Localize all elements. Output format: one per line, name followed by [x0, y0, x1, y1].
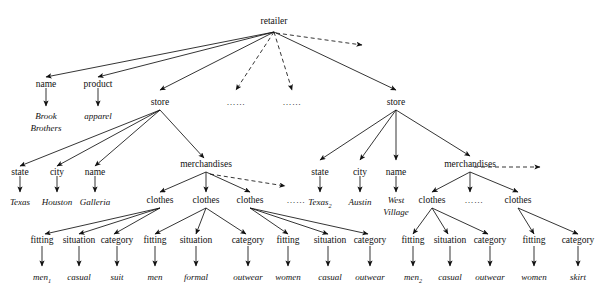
edge-clothesb-category — [206, 208, 246, 234]
edge-clothesa-fitting — [45, 208, 160, 234]
edge-merch2-clothes-b — [470, 172, 518, 192]
node-a-category[interactable]: category — [101, 235, 134, 245]
edge-store1-merchandises — [160, 110, 204, 158]
node-store2-name[interactable]: name — [386, 167, 407, 177]
node-b-situation[interactable]: situation — [180, 235, 213, 245]
leaf-name-value-line2: Brothers — [30, 123, 62, 133]
edges-merch1 — [160, 172, 285, 192]
node-merch1-ellipsis: …… — [286, 195, 305, 205]
edges-clothes-d — [413, 208, 488, 234]
leaf-b-fitting-value: men — [148, 272, 163, 282]
node-ellipsis-1: …… — [226, 97, 245, 107]
edges-clothes-a — [45, 208, 160, 234]
leaf-a-situation-value: casual — [67, 272, 91, 282]
node-a-situation[interactable]: situation — [63, 235, 96, 245]
leaf-b-situation-value: formal — [184, 272, 209, 282]
leaf-store2-state-value: Texas2 — [308, 197, 331, 209]
edge-root-store1 — [160, 32, 274, 90]
edge-store2-state — [320, 110, 396, 160]
retailer-tree-diagram: retailer name Brook Brothers product app… — [0, 0, 609, 301]
edge-clothesa-category — [114, 208, 160, 234]
leaf-d-category-value: outwear — [475, 272, 505, 282]
leaf-store2-name-value-line1: West — [388, 195, 405, 205]
leaf-b-category-value: outwear — [233, 272, 263, 282]
node-name[interactable]: name — [36, 79, 57, 89]
node-c-fitting[interactable]: fitting — [276, 235, 299, 245]
edge-root-store2 — [274, 32, 396, 90]
node-store1-merchandises[interactable]: merchandises — [180, 159, 232, 169]
node-clothes-a[interactable]: clothes — [147, 195, 174, 205]
leaf-c-category-value: outwear — [355, 272, 385, 282]
node-store2-state[interactable]: state — [311, 167, 328, 177]
edge-clothesc-category — [250, 208, 368, 234]
edge-root-product — [98, 32, 274, 77]
node-e-category[interactable]: category — [562, 235, 595, 245]
leaf-store2-city-value: Austin — [347, 197, 372, 207]
edge-clothesc-situation — [250, 208, 328, 234]
edges-merch2 — [432, 167, 540, 192]
node-store-2[interactable]: store — [387, 97, 405, 107]
leaf-c-situation-value: casual — [318, 272, 342, 282]
node-c-situation[interactable]: situation — [314, 235, 347, 245]
edge-root-ellipsis1 — [236, 32, 274, 90]
edge-clothesb-fitting — [155, 208, 206, 234]
leaf-c-fitting-value: women — [275, 272, 301, 282]
node-clothes-d[interactable]: clothes — [419, 195, 446, 205]
node-b-category[interactable]: category — [232, 235, 265, 245]
node-c-category[interactable]: category — [354, 235, 387, 245]
node-d-category[interactable]: category — [474, 235, 507, 245]
edge-clothesd-fitting — [413, 208, 432, 234]
edge-store2-merchandises — [396, 110, 470, 156]
leaf-e-fitting-value: women — [521, 272, 547, 282]
leaf-product-value: apparel — [84, 111, 112, 121]
edge-root-name — [46, 32, 274, 77]
node-d-fitting[interactable]: fitting — [401, 235, 424, 245]
leaf-store1-city-value: Houston — [41, 197, 73, 207]
edges-layer — [20, 32, 578, 266]
leaf-store1-state-value: Texas — [10, 197, 31, 207]
edges-store2 — [320, 110, 470, 160]
leaf-name-value-line1: Brook — [35, 111, 58, 121]
node-merch2-ellipsis: …… — [464, 195, 483, 205]
edge-root-ellipsis2 — [274, 32, 292, 90]
node-product[interactable]: product — [83, 79, 112, 89]
node-clothes-b[interactable]: clothes — [193, 195, 220, 205]
node-clothes-c[interactable]: clothes — [237, 195, 264, 205]
leaf-a-category-value: suit — [110, 272, 124, 282]
edge-merch1-clothes-c — [206, 172, 250, 192]
edge-store2-city — [360, 110, 396, 160]
node-store1-state[interactable]: state — [11, 167, 28, 177]
node-retailer[interactable]: retailer — [261, 16, 289, 26]
node-store1-city[interactable]: city — [50, 167, 64, 177]
leaf-store1-name-value: Galleria — [80, 197, 111, 207]
node-store2-merchandises[interactable]: merchandises — [444, 159, 496, 169]
edge-merch2-clothes-a — [432, 172, 470, 192]
leaf-a-fitting-value: men1 — [33, 272, 51, 284]
edges-clothes-e — [518, 208, 578, 234]
edges-clothes-c — [250, 208, 368, 234]
edge-merch1-clothes-a — [160, 172, 206, 192]
node-store2-city[interactable]: city — [353, 167, 367, 177]
node-d-situation[interactable]: situation — [434, 235, 467, 245]
node-store-1[interactable]: store — [151, 97, 169, 107]
nodes-layer: retailer name Brook Brothers product app… — [10, 16, 595, 284]
node-b-fitting[interactable]: fitting — [143, 235, 166, 245]
edges-clothes-b — [155, 208, 246, 234]
node-ellipsis-2: …… — [282, 97, 301, 107]
node-e-fitting[interactable]: fitting — [522, 235, 545, 245]
leaf-d-fitting-value: men2 — [404, 272, 422, 284]
leaf-d-situation-value: casual — [438, 272, 462, 282]
leaf-store2-name-value-line2: Village — [383, 207, 408, 217]
edge-clothese-category — [518, 208, 578, 234]
node-clothes-e[interactable]: clothes — [505, 195, 532, 205]
edge-merch1-ellipsis — [210, 174, 285, 186]
edge-clothesa-situation — [79, 208, 160, 234]
node-a-fitting[interactable]: fitting — [30, 235, 53, 245]
leaf-e-category-value: skirt — [570, 272, 587, 282]
node-store1-name[interactable]: name — [85, 167, 106, 177]
